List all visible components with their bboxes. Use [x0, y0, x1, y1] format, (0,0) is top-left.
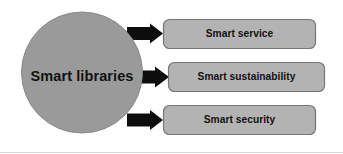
node-smart-security[interactable]: Smart security — [164, 106, 316, 135]
hub-label: Smart libraries — [30, 68, 133, 84]
node-smart-service[interactable]: Smart service — [164, 20, 316, 49]
node-label-2: Smart sustainability — [198, 71, 296, 82]
smart-libraries-diagram: Smart libraries Smart service Smart sust… — [0, 0, 343, 154]
connector-arrow-3 — [127, 110, 163, 130]
node-smart-sustainability[interactable]: Smart sustainability — [169, 63, 325, 92]
node-label-1: Smart service — [206, 28, 274, 39]
diagram-canvas: Smart libraries Smart service Smart sust… — [0, 0, 343, 154]
node-label-3: Smart security — [204, 114, 276, 125]
hub-node[interactable]: Smart libraries — [22, 12, 143, 133]
